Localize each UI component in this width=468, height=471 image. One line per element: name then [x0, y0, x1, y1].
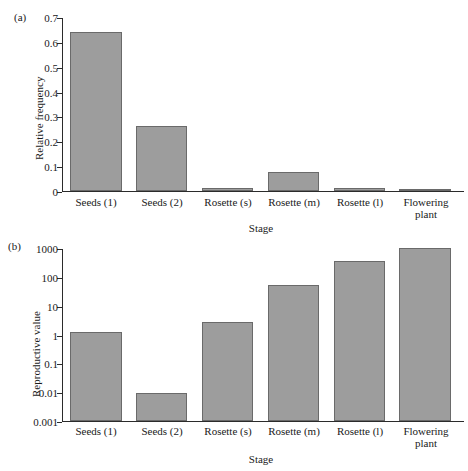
y-tick-label: 0.6: [44, 37, 58, 48]
y-tick-label: 0.01: [39, 388, 58, 399]
bar: [268, 172, 319, 191]
x-tick-label: Seeds (2): [129, 196, 195, 221]
x-tick-label: Seeds (1): [63, 425, 129, 450]
bar-slot: [63, 18, 129, 191]
bar-slot: [129, 18, 195, 191]
bar-slot: [392, 249, 458, 421]
bar-slot: [326, 18, 392, 191]
bar-slot: [129, 249, 195, 421]
panel-a-label: (a): [14, 11, 26, 23]
bar-slot: [326, 249, 392, 421]
x-axis-line-a: [62, 191, 464, 192]
x-tick-label: Seeds (2): [129, 425, 195, 450]
y-tick-label: 0.1: [44, 162, 58, 173]
bar-slot: [195, 18, 261, 191]
bar: [202, 322, 253, 421]
x-axis-title-b: Stage: [63, 453, 459, 465]
bar: [399, 189, 450, 191]
y-axis-title-b: Reproductive value: [30, 311, 42, 397]
y-tick-label: 1000: [36, 244, 58, 255]
bar: [399, 248, 450, 421]
x-tick-label: Rosette (l): [327, 425, 393, 450]
y-tick-label: 0.5: [44, 62, 58, 73]
y-tick-label: 0.4: [44, 87, 58, 98]
y-tick-label: 0.3: [44, 112, 58, 123]
bar-slot: [195, 249, 261, 421]
bar-slot: [63, 249, 129, 421]
bar-slot: [260, 18, 326, 191]
panel-b-label: (b): [8, 240, 21, 252]
bar: [202, 188, 253, 191]
x-tick-label: Rosette (s): [195, 425, 261, 450]
x-tick-label: Rosette (m): [261, 425, 327, 450]
y-tick-label: 10: [47, 301, 58, 312]
bar: [268, 285, 319, 421]
y-tick-label: 100: [42, 272, 59, 283]
plot-area-b: 0.0010.010.11101001000: [62, 249, 458, 422]
x-tick-label: Floweringplant: [393, 425, 459, 450]
x-tick-label: Rosette (m): [261, 196, 327, 221]
y-tick-label: 0.001: [33, 417, 58, 428]
y-tick-label: 0.7: [44, 13, 58, 24]
bar: [70, 32, 121, 191]
x-axis-tick-labels-b: Seeds (1)Seeds (2)Rosette (s)Rosette (m)…: [63, 425, 459, 450]
y-axis-title-a: Relative frequency: [33, 77, 45, 160]
y-tick-label: 0.2: [44, 137, 58, 148]
x-tick-label: Seeds (1): [63, 196, 129, 221]
x-tick-label: Rosette (s): [195, 196, 261, 221]
x-axis-line-b: [62, 421, 464, 422]
panel-b: (b) Reproductive value 0.0010.010.111010…: [0, 235, 468, 471]
bar: [70, 332, 121, 421]
bar: [136, 393, 187, 421]
bar: [136, 126, 187, 191]
y-tick-label: 1: [53, 330, 59, 341]
y-tick-label: 0: [53, 187, 59, 198]
x-tick-label: Rosette (l): [327, 196, 393, 221]
bar: [334, 261, 385, 421]
y-tick-label: 0.1: [44, 359, 58, 370]
panel-a: (a) Relative frequency 00.10.20.30.40.50…: [0, 0, 468, 235]
plot-area-a: 00.10.20.30.40.50.60.7: [62, 18, 458, 192]
bar-slot: [260, 249, 326, 421]
bar-series-b: [63, 249, 458, 421]
x-axis-title-a: Stage: [63, 222, 459, 234]
x-tick-label: Floweringplant: [393, 196, 459, 221]
x-axis-tick-labels-a: Seeds (1)Seeds (2)Rosette (s)Rosette (m)…: [63, 196, 459, 221]
bar-series-a: [63, 18, 458, 191]
bar: [334, 188, 385, 191]
bar-slot: [392, 18, 458, 191]
